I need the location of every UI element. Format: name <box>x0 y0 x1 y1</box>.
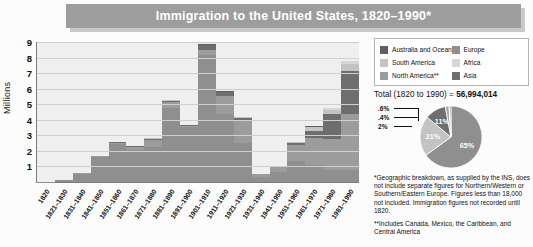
x-tick-label: 1820 <box>36 188 50 204</box>
y-tick: 6 <box>27 83 32 94</box>
gridline <box>37 166 359 167</box>
pie-slice-label: 65% <box>460 141 475 150</box>
y-tick: 5 <box>27 99 32 110</box>
gridline <box>37 120 359 121</box>
leader-line-south-america <box>394 126 412 127</box>
leader-line-africa <box>394 117 418 118</box>
bar-segment <box>323 139 341 170</box>
legend-swatch <box>380 72 388 80</box>
gridline <box>37 104 359 105</box>
bar-column <box>198 42 216 182</box>
bar-segment <box>287 145 305 161</box>
y-tick: 1 <box>27 161 32 172</box>
y-tick: 3 <box>27 130 32 141</box>
chart-title-bar: Immigration to the United States, 1820–1… <box>66 4 521 28</box>
pie-label-australia: .6% <box>378 105 389 112</box>
bar-segment <box>323 170 341 182</box>
bar-segment <box>252 177 270 182</box>
legend-item[interactable]: Asia <box>452 69 524 82</box>
y-tick: 8 <box>27 52 32 63</box>
bar-column <box>216 42 234 182</box>
x-axis-ticks: 18201821–18301831–18401841–18501851–1860… <box>36 186 358 246</box>
legend-item[interactable]: South America <box>380 56 452 69</box>
bar-segment <box>216 114 234 182</box>
legend-column-left: Australia and OceaniaSouth AmericaNorth … <box>380 43 452 82</box>
bar-group <box>37 42 359 182</box>
bar-column <box>162 42 180 182</box>
legend-item[interactable]: Australia and Oceania <box>380 43 452 56</box>
bar-column <box>144 42 162 182</box>
footnote-1: *Geographic breakdown, as supplied by th… <box>374 174 531 215</box>
x-tick: 1981–1990 <box>340 186 358 246</box>
footnote-2-text: Includes Canada, Mexico, the Caribbean, … <box>374 220 511 235</box>
bar-column <box>234 42 252 182</box>
bar-segment <box>341 71 359 114</box>
bar-segment <box>234 143 252 182</box>
side-panel: Australia and OceaniaSouth AmericaNorth … <box>372 38 533 247</box>
legend-label: North America** <box>392 72 439 79</box>
bar-segment <box>341 114 359 170</box>
gridline <box>37 151 359 152</box>
legend-item[interactable]: Europe <box>452 43 524 56</box>
legend-box: Australia and OceaniaSouth AmericaNorth … <box>374 38 529 86</box>
total-text: Total (1820 to 1990) = 56,994,014 <box>374 90 497 99</box>
bar-segment <box>341 170 359 182</box>
y-axis-ticks: 987654321 <box>16 42 32 182</box>
pie-label-africa: .4% <box>378 114 389 121</box>
gridline <box>37 89 359 90</box>
legend-swatch <box>380 46 388 54</box>
gridline <box>37 73 359 74</box>
bar-column <box>270 42 288 182</box>
legend-item[interactable]: Africa <box>452 56 524 69</box>
chart-figure: Immigration to the United States, 1820–1… <box>0 0 533 247</box>
bar-column <box>55 42 73 182</box>
footnotes: *Geographic breakdown, as supplied by th… <box>374 174 531 236</box>
bar-segment <box>91 157 109 182</box>
bar-column <box>126 42 144 182</box>
legend-label: Europe <box>464 46 485 53</box>
total-value: 56,994,014 <box>456 90 497 99</box>
y-tick: 9 <box>27 37 32 48</box>
leader-line-australia <box>394 108 418 109</box>
bar-segment <box>73 174 91 182</box>
legend-label: Asia <box>464 72 477 79</box>
bar-column <box>287 42 305 182</box>
bar-segment <box>234 120 252 144</box>
y-tick: 4 <box>27 114 32 125</box>
footnote-2: **Includes Canada, Mexico, the Caribbean… <box>374 220 531 236</box>
gridline <box>37 135 359 136</box>
legend-label: South America <box>392 59 435 66</box>
pie-slice-label: 21% <box>426 132 441 141</box>
y-tick: 7 <box>27 68 32 79</box>
bar-segment <box>55 180 73 182</box>
bar-segment <box>144 147 162 182</box>
bar-column <box>341 42 359 182</box>
bar-column <box>73 42 91 182</box>
bar-segment <box>287 161 305 182</box>
bar-column <box>252 42 270 182</box>
bar-segment <box>109 144 127 182</box>
gridline <box>37 58 359 59</box>
bar-column <box>180 42 198 182</box>
legend-swatch <box>380 59 388 67</box>
pie-chart: 65%21%11% .6% .4% 2% <box>372 104 533 170</box>
bar-column <box>37 42 55 182</box>
leader-line-australia-v <box>418 108 419 121</box>
legend-item[interactable]: North America** <box>380 69 452 82</box>
bar-segment <box>198 55 216 182</box>
legend-column-right: EuropeAfricaAsia <box>452 43 524 82</box>
legend-label: Africa <box>464 59 481 66</box>
bar-column <box>109 42 127 182</box>
total-prefix: Total (1820 to 1990) = <box>374 90 456 99</box>
pie-svg: 65%21%11% <box>412 104 490 170</box>
legend-label: Australia and Oceania <box>392 46 457 53</box>
bar-segment <box>341 64 359 71</box>
y-tick: 2 <box>27 145 32 156</box>
gridline <box>37 42 359 43</box>
bar-column <box>323 42 341 182</box>
plot-area <box>36 42 359 183</box>
page-title: Immigration to the United States, 1820–1… <box>156 9 432 23</box>
bar-column <box>91 42 109 182</box>
legend-swatch <box>452 59 460 67</box>
y-axis-label: Millions <box>2 82 12 114</box>
